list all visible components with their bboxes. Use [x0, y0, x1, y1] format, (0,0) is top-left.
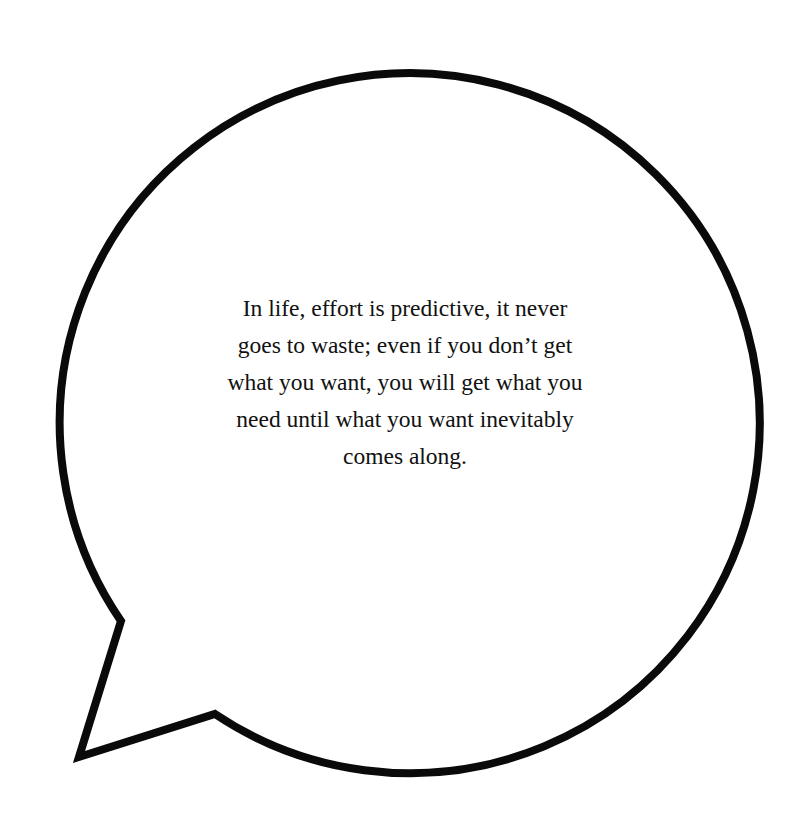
quote-line: comes along. — [170, 438, 640, 475]
quote-line: goes to waste; even if you don’t get — [170, 327, 640, 364]
quote-line: what you want, you will get what you — [170, 364, 640, 401]
quote-text: In life, effort is predictive, it never … — [170, 290, 640, 475]
quote-line: In life, effort is predictive, it never — [170, 290, 640, 327]
quote-line: need until what you want inevitably — [170, 401, 640, 438]
